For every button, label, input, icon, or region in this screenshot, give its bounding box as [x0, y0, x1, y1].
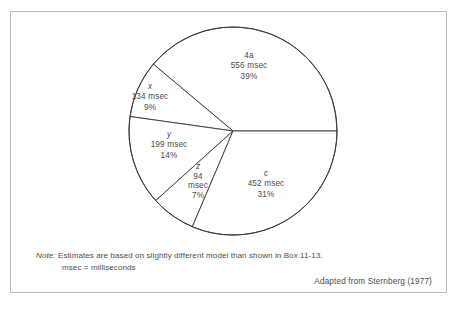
figure-frame-border: 4a 556 msec 39% x 134 msec 9% y 199 msec… — [10, 11, 447, 293]
slice-value-y: 199 msec — [131, 140, 207, 150]
note-text-1: Estimates are based on slightly differen… — [58, 251, 323, 260]
pie-chart: 4a 556 msec 39% x 134 msec 9% y 199 msec… — [11, 12, 448, 242]
pie-chart-svg — [11, 12, 448, 242]
slice-value-z-line2: msec — [181, 181, 215, 191]
slice-percent-x: 9% — [114, 103, 186, 113]
slice-label-4a: 4a 556 msec 39% — [209, 51, 289, 82]
slice-value-4a: 556 msec — [209, 61, 289, 71]
figure-note: Note: Estimates are based on slightly di… — [36, 250, 426, 273]
slice-symbol-z: z — [181, 162, 215, 172]
slice-percent-4a: 39% — [209, 72, 289, 82]
slice-percent-y: 14% — [131, 151, 207, 161]
figure-root: · · · · · 4a 556 msec 39% x 134 msec 9% … — [0, 0, 463, 311]
note-line-1: Note: Estimates are based on slightly di… — [36, 250, 426, 262]
slice-value-x: 134 msec — [114, 92, 186, 102]
note-line-2: msec = milliseconds — [62, 262, 426, 274]
top-bleed-right: · · — [228, 0, 236, 3]
note-label: Note: — [36, 251, 56, 260]
top-bleed-left: · · · — [6, 0, 20, 3]
top-edge-bleed-text: · · · · · — [0, 0, 463, 3]
slice-symbol-x: x — [114, 82, 186, 92]
slice-label-y: y 199 msec 14% — [131, 130, 207, 161]
slice-symbol-y: y — [131, 130, 207, 140]
slice-label-z: z 94 msec 7% — [181, 162, 215, 200]
figure-source-attribution: Adapted from Sternberg (1977) — [314, 277, 432, 286]
slice-label-x: x 134 msec 9% — [114, 82, 186, 113]
slice-symbol-4a: 4a — [209, 51, 289, 61]
slice-percent-c: 31% — [226, 190, 306, 200]
slice-symbol-c: c — [226, 169, 306, 179]
slice-percent-z: 7% — [181, 191, 215, 201]
slice-value-c: 452 msec — [226, 179, 306, 189]
slice-value-z-line1: 94 — [181, 172, 215, 182]
slice-label-c: c 452 msec 31% — [226, 169, 306, 200]
